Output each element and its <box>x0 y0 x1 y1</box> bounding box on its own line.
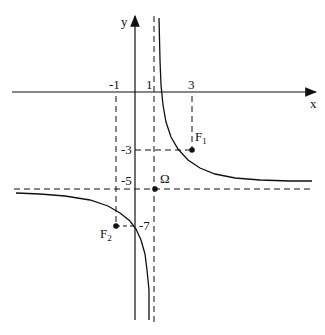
tick-x-1: 1 <box>146 77 153 92</box>
tick-y-minus3: -3 <box>121 142 132 157</box>
hyperbola-right-branch <box>159 18 312 181</box>
tick-x-3: 3 <box>188 77 195 92</box>
tick-y-minus7: -7 <box>139 218 150 233</box>
point-omega <box>152 186 158 192</box>
y-axis-label: y <box>121 14 128 29</box>
label-F2: F2 <box>100 226 112 243</box>
hyperbola-diagram: x y -1 1 3 -3 -5 -7 F1 F2 Ω <box>0 0 325 335</box>
tick-y-minus5: -5 <box>121 173 132 188</box>
x-axis-label: x <box>310 96 317 111</box>
point-F1 <box>189 147 195 153</box>
label-omega: Ω <box>160 171 170 186</box>
point-F2 <box>113 223 119 229</box>
label-F1: F1 <box>195 129 207 146</box>
hyperbola-left-branch <box>16 193 149 320</box>
tick-x-minus1: -1 <box>109 77 120 92</box>
